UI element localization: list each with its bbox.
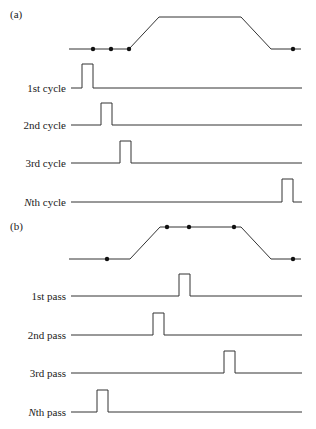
sample-point — [127, 47, 131, 51]
row-label: 2nd cycle — [24, 119, 67, 131]
row-label: 3rd cycle — [25, 157, 66, 169]
row-label: 3rd pass — [30, 367, 66, 379]
sample-point — [232, 225, 236, 229]
panel-label: (b) — [10, 220, 23, 233]
panel-b: (b)1st pass2nd pass3rd passNth pass — [10, 220, 302, 418]
sample-point — [187, 225, 191, 229]
timing-diagram: (a)1st cycle2nd cycle3rd cycleNth cycle(… — [0, 0, 316, 429]
pulse-row: 1st pass — [31, 274, 302, 302]
sample-point — [291, 257, 295, 261]
row-label: 1st pass — [31, 290, 66, 302]
panel-label: (a) — [10, 8, 23, 21]
sample-point — [165, 225, 169, 229]
sample-point — [105, 257, 109, 261]
panel-a: (a)1st cycle2nd cycle3rd cycleNth cycle — [10, 8, 302, 208]
pulse-row: 2nd cycle — [24, 103, 302, 131]
pulse-signal — [71, 351, 302, 373]
pulse-row: Nth cycle — [23, 179, 302, 208]
pulse-row: 3rd cycle — [25, 141, 302, 169]
trapezoid-profile — [69, 227, 301, 259]
sample-point — [109, 47, 113, 51]
pulse-signal — [71, 141, 302, 163]
pulse-signal — [71, 390, 302, 412]
sample-point — [291, 47, 295, 51]
pulse-signal — [71, 313, 302, 335]
row-label: Nth cycle — [23, 196, 66, 208]
pulse-signal — [71, 103, 302, 125]
sample-point — [91, 47, 95, 51]
pulse-signal — [71, 179, 302, 202]
pulse-row: 3rd pass — [30, 351, 302, 379]
row-label: Nth pass — [27, 406, 66, 418]
trapezoid-profile — [69, 17, 301, 49]
pulse-row: 2nd pass — [28, 313, 302, 341]
row-label: 2nd pass — [28, 329, 66, 341]
pulse-row: Nth pass — [27, 390, 302, 418]
pulse-row: 1st cycle — [27, 64, 302, 94]
row-label: 1st cycle — [27, 82, 66, 94]
pulse-signal — [71, 274, 302, 296]
pulse-signal — [71, 64, 302, 88]
